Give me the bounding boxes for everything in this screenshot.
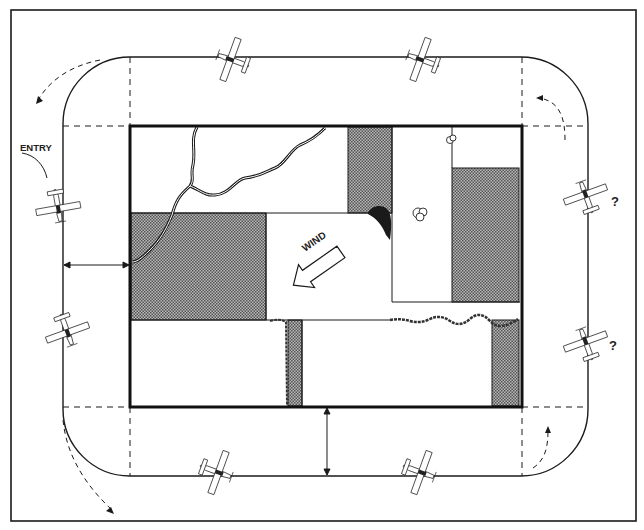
airplane-icon-right-upper — [560, 174, 613, 220]
distance-arrow-bottom — [324, 408, 330, 475]
distance-arrow-left — [64, 262, 129, 268]
entry-label: ENTRY — [20, 142, 53, 153]
tree-clump-icon — [368, 206, 391, 240]
airplane-icon-left-lower — [40, 307, 93, 353]
tree-icon — [413, 135, 456, 221]
airplane-icon-bottom-left — [193, 445, 239, 498]
question-mark-upper: ? — [611, 194, 619, 209]
airplane-icon-bottom-right — [396, 445, 442, 498]
wind-arrow-icon — [285, 240, 349, 296]
airplane-icon-top-left — [210, 34, 256, 87]
question-mark-lower: ? — [609, 338, 617, 353]
wind-label: WIND — [300, 229, 328, 253]
hedgerows — [270, 315, 518, 405]
airplane-icon-entry — [33, 186, 83, 226]
traffic-pattern-diagram: WIND ENTRY ? ? — [0, 0, 644, 530]
airplane-icon-top-right — [400, 34, 446, 87]
airplane-icon-right-lower — [560, 321, 613, 367]
entry-pointer — [22, 153, 47, 178]
turn-arrowheads — [36, 95, 551, 514]
